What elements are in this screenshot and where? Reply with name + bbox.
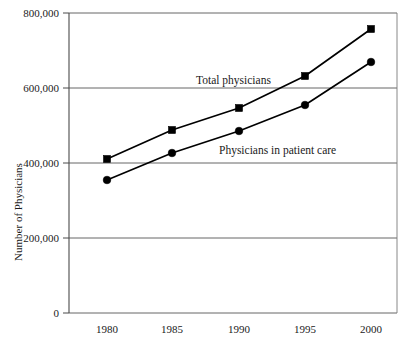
- data-point-patient-care-1995: [301, 101, 309, 109]
- data-point-total-1990: [236, 105, 243, 112]
- chart-figure: 800,000 600,000 400,000 200,000 0 1980 1…: [0, 0, 418, 347]
- x-tick-label-1985: 1985: [161, 323, 184, 335]
- line-chart: 800,000 600,000 400,000 200,000 0 1980 1…: [0, 0, 418, 347]
- data-point-total-2000: [368, 26, 375, 33]
- x-axis-tick-labels: 1980 1985 1990 1995 2000: [96, 323, 383, 335]
- y-axis-title: Number of Physicians: [12, 163, 24, 261]
- series-annotation-total-physicians: Total physicians: [196, 74, 271, 87]
- y-tick-label-600000: 600,000: [23, 82, 59, 94]
- data-point-patient-care-1985: [168, 149, 176, 157]
- data-point-patient-care-1980: [103, 176, 111, 184]
- series-annotation-patient-care: Physicians in patient care: [219, 144, 336, 157]
- data-point-patient-care-1990: [235, 127, 243, 135]
- y-tick-label-200000: 200,000: [23, 232, 59, 244]
- data-point-total-1985: [169, 127, 176, 134]
- x-tick-label-2000: 2000: [360, 323, 383, 335]
- y-tick-label-400000: 400,000: [23, 157, 59, 169]
- data-point-total-1995: [302, 73, 309, 80]
- x-tick-label-1995: 1995: [294, 323, 317, 335]
- x-tick-label-1980: 1980: [96, 323, 119, 335]
- x-tick-label-1990: 1990: [228, 323, 251, 335]
- data-point-patient-care-2000: [367, 58, 375, 66]
- y-tick-label-0: 0: [54, 307, 60, 319]
- y-tick-label-800000: 800,000: [23, 7, 59, 19]
- y-axis-tick-labels: 800,000 600,000 400,000 200,000 0: [23, 7, 59, 319]
- data-point-total-1980: [104, 156, 111, 163]
- y-axis-ticks: [63, 13, 69, 313]
